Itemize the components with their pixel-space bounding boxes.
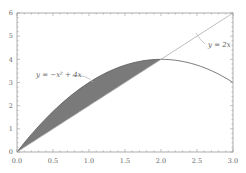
- line-label: y = 2x: [207, 41, 231, 49]
- tick-labels: 0.00.51.01.52.02.53.00123456: [9, 9, 238, 165]
- curves: [17, 13, 233, 152]
- y-tick-label: 4: [9, 56, 13, 64]
- y-tick-label: 1: [9, 125, 13, 133]
- y-tick-label: 2: [9, 102, 13, 110]
- x-tick-label: 2.5: [192, 157, 202, 165]
- x-tick-label: 3.0: [228, 157, 238, 165]
- y-tick-label: 5: [9, 32, 13, 40]
- x-tick-label: 1.5: [120, 157, 130, 165]
- x-tick-label: 0.5: [48, 157, 58, 165]
- plot-svg: 0.00.51.01.52.02.53.00123456 y = −x² + 4…: [0, 0, 246, 173]
- x-tick-label: 2.0: [156, 157, 166, 165]
- chart-container: 0.00.51.01.52.02.53.00123456 y = −x² + 4…: [0, 0, 246, 173]
- y-tick-label: 6: [9, 9, 13, 17]
- line-curve: [17, 13, 233, 152]
- y-tick-label: 3: [9, 79, 13, 87]
- x-tick-label: 1.0: [84, 157, 94, 165]
- parabola-label: y = −x² + 4x: [35, 71, 82, 79]
- line-leader-line: [196, 33, 205, 44]
- y-tick-label: 0: [9, 148, 13, 156]
- x-tick-label: 0.0: [12, 157, 22, 165]
